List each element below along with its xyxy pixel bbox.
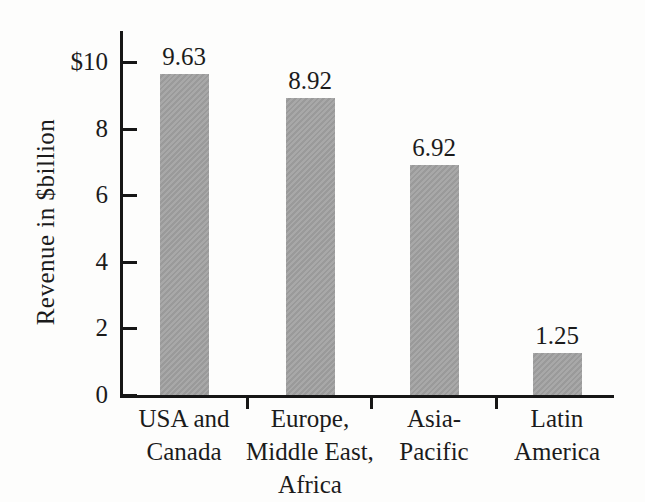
y-axis-tick: [123, 128, 137, 131]
bar-1: [286, 98, 335, 395]
y-axis-tick: [123, 261, 137, 264]
bar-value-label: 8.92: [250, 67, 370, 95]
y-tick-label: 8: [36, 113, 108, 145]
bar-value-label: 1.25: [497, 322, 617, 350]
category-label: LatinAmerica: [472, 402, 642, 468]
bar-2: [410, 165, 459, 395]
y-tick-label: 2: [36, 312, 108, 344]
x-axis-line: [120, 395, 614, 398]
bar-3: [533, 353, 582, 395]
bar-value-label: 9.63: [124, 43, 244, 71]
y-tick-label: $10: [36, 46, 108, 78]
y-tick-label: 0: [36, 379, 108, 411]
y-axis-tick: [123, 394, 137, 397]
y-tick-label: 6: [36, 179, 108, 211]
y-axis-tick: [123, 194, 137, 197]
y-axis-title: Revenue in $billion: [32, 119, 60, 326]
y-tick-label: 4: [36, 246, 108, 278]
bar-value-label: 6.92: [374, 134, 494, 162]
y-axis-line: [120, 31, 123, 398]
y-axis-tick: [123, 327, 137, 330]
category-label-line: Africa: [225, 468, 395, 501]
category-label-line: America: [472, 435, 642, 468]
bar-0: [160, 74, 209, 395]
revenue-bar-chart: Revenue in $billion $10864209.63USA andC…: [0, 0, 645, 502]
category-label-line: Latin: [472, 402, 642, 435]
scanned-chart-page: Revenue in $billion $10864209.63USA andC…: [0, 0, 645, 502]
